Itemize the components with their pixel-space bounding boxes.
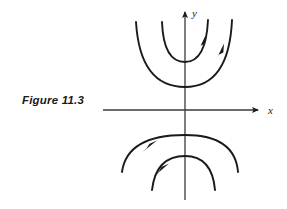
y-axis-label: y	[191, 7, 197, 19]
parabola-family-plot: x y	[0, 0, 287, 209]
curve-upper-outer	[136, 20, 232, 87]
curve-lower-inner	[152, 156, 215, 190]
direction-arrow-upper-outer	[216, 44, 224, 61]
x-axis-label: x	[267, 104, 273, 116]
curve-lower-inner-path	[152, 156, 215, 190]
x-axis: x	[103, 104, 273, 116]
figure-page: Figure 11.3 x y	[0, 0, 287, 209]
curve-lower-outer	[122, 135, 238, 172]
curve-lower-outer-path	[122, 135, 238, 172]
curve-upper-outer-path	[136, 20, 232, 87]
y-axis: y	[185, 7, 197, 200]
